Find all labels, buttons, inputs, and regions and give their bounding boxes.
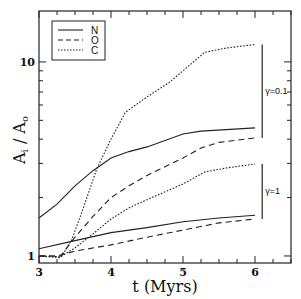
bracket-label: γ=0.1 [265,86,287,96]
bracket-annotations: γ=0.1γ=1 [262,44,287,219]
x-axis-title: t (Myrs) [132,277,197,296]
tick-labels: 3456110 [20,56,259,279]
chart: 3456110 γ=0.1γ=1 N O C t (Myrs) Ai / Ao [0,0,301,299]
series-lines [39,45,255,258]
svg-text:Ai / Ao: Ai / Ao [10,116,30,165]
y-tick-label: 1 [27,250,35,263]
bracket-label: γ=1 [265,186,280,196]
y-axis-title: Ai / Ao [10,116,30,165]
legend-label-c: C [91,45,98,56]
x-tick-label: 4 [107,266,115,279]
series-c-gamma-1 [39,164,255,257]
legend: N O C [52,21,105,60]
y-tick-label: 10 [20,56,36,69]
series-o-gamma-0-1 [39,138,255,256]
series-n-gamma-1 [39,215,255,248]
series-o-gamma-1 [39,219,255,256]
x-tick-label: 6 [251,266,259,279]
x-tick-label: 3 [35,266,43,279]
series-c-gamma-0-1 [39,45,255,258]
